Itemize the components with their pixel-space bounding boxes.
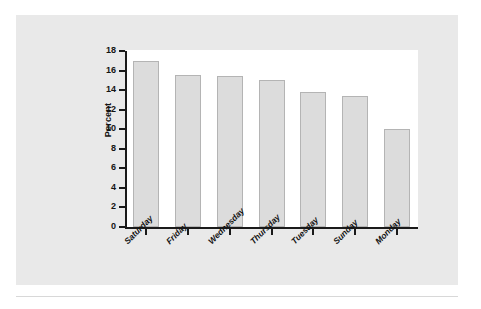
- y-tick-label: 10: [88, 123, 116, 133]
- x-tick-mark: [312, 229, 314, 235]
- bar: [300, 92, 326, 227]
- y-tick-mark: [119, 206, 125, 208]
- y-tick-label: 8: [88, 143, 116, 153]
- y-tick-label: 4: [88, 182, 116, 192]
- y-tick-label: 12: [88, 104, 116, 114]
- figure-panel: Percent 024681012141618 SaturdayFridayWe…: [16, 15, 458, 285]
- bar: [384, 129, 410, 227]
- y-tick-label: 0: [88, 221, 116, 231]
- y-tick-mark: [119, 109, 125, 111]
- y-tick-label: 2: [88, 201, 116, 211]
- bar: [175, 75, 201, 227]
- y-tick-mark: [119, 167, 125, 169]
- y-tick-mark: [119, 50, 125, 52]
- bar: [342, 96, 368, 227]
- y-tick-label: 6: [88, 162, 116, 172]
- chart-screenshot: Percent 024681012141618 SaturdayFridayWe…: [0, 0, 481, 309]
- y-tick-label: 16: [88, 65, 116, 75]
- y-axis-title: Percent: [103, 90, 113, 150]
- bottom-divider: [16, 296, 458, 297]
- y-tick-mark: [119, 70, 125, 72]
- bar: [259, 80, 285, 227]
- y-axis-line: [125, 51, 127, 229]
- y-tick-mark: [119, 128, 125, 130]
- y-tick-mark: [119, 89, 125, 91]
- x-tick-mark: [354, 229, 356, 235]
- y-tick-label: 14: [88, 84, 116, 94]
- y-tick-label: 18: [88, 45, 116, 55]
- y-tick-mark: [119, 148, 125, 150]
- bar: [133, 61, 159, 227]
- y-tick-mark: [119, 226, 125, 228]
- x-tick-mark: [396, 229, 398, 235]
- y-tick-mark: [119, 187, 125, 189]
